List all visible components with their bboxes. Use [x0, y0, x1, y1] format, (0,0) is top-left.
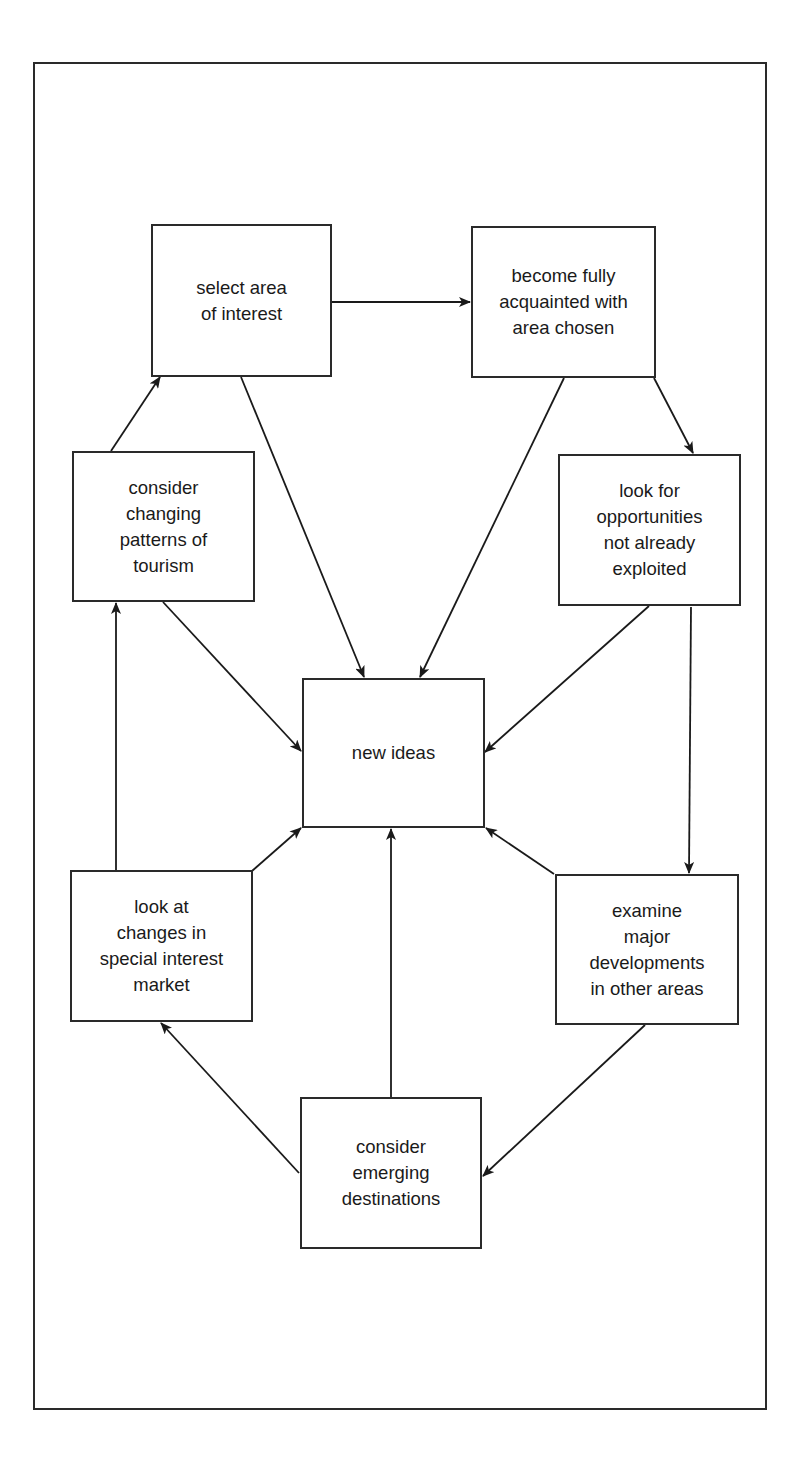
node-label: consider emerging destinations: [342, 1134, 441, 1212]
node-label: examine major developments in other area…: [589, 898, 704, 1002]
node-label: new ideas: [352, 740, 435, 766]
node-label: become fully acquainted with area chosen: [499, 263, 628, 341]
node-new-ideas: new ideas: [302, 678, 485, 828]
node-label: look for opportunities not already explo…: [597, 478, 703, 582]
node-select-area: select area of interest: [151, 224, 332, 377]
node-emerging-destinations: consider emerging destinations: [300, 1097, 482, 1249]
node-label: select area of interest: [196, 275, 287, 327]
node-opportunities: look for opportunities not already explo…: [558, 454, 741, 606]
node-major-developments: examine major developments in other area…: [555, 874, 739, 1025]
node-changing-patterns: consider changing patterns of tourism: [72, 451, 255, 602]
node-label: consider changing patterns of tourism: [120, 475, 207, 579]
node-label: look at changes in special interest mark…: [100, 894, 223, 998]
node-special-interest: look at changes in special interest mark…: [70, 870, 253, 1022]
node-become-acquainted: become fully acquainted with area chosen: [471, 226, 656, 378]
